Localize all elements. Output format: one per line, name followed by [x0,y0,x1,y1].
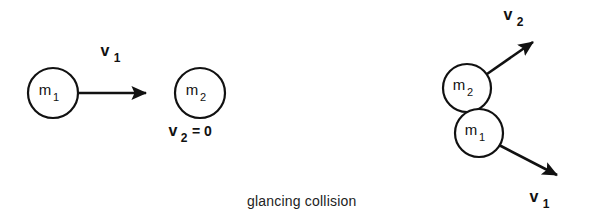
after-v1-label-subscript: 1 [543,197,550,211]
after-collision-group: v 2 m 2 m 1 v 1 [443,6,557,211]
after-v2-line [487,42,533,74]
after-v1-line [499,145,557,175]
after-m1-label: m [465,121,478,138]
after-v2-label-subscript: 2 [517,15,524,29]
after-velocity-1-arrow [499,145,557,175]
before-v1-label-letter: v [101,42,110,59]
before-velocity-1-label: v 1 [101,42,121,65]
after-m1-subscript: 1 [479,131,485,143]
before-m2-subscript: 2 [200,91,206,103]
physics-diagram-canvas: m 1 v 1 m 2 v 2 = 0 [0,0,601,221]
before-v1-label-subscript: 1 [114,51,121,65]
before-collision-group: m 1 v 1 m 2 v 2 = 0 [28,42,225,145]
before-v2-label-subscript: 2 [181,131,188,145]
before-v2-equals-zero: = 0 [192,123,212,139]
after-velocity-1-label: v 1 [530,188,550,211]
after-v2-label-letter: v [504,6,513,23]
before-velocity-2-label: v 2 = 0 [169,122,213,145]
before-body-m2: m 2 [175,68,225,118]
after-m2-subscript: 2 [467,86,473,98]
before-m1-label: m [39,81,52,98]
after-velocity-2-arrow [487,42,533,74]
collision-diagram-svg: m 1 v 1 m 2 v 2 = 0 [0,0,601,221]
after-v1-label-letter: v [530,188,539,205]
after-body-m1: m 1 [455,109,503,157]
before-v2-label-letter: v [169,122,178,139]
after-velocity-2-label: v 2 [504,6,524,29]
before-m1-subscript: 1 [53,91,59,103]
after-m2-label: m [453,76,466,93]
before-body-m1: m 1 [28,68,78,118]
before-m2-label: m [186,81,199,98]
figure-caption: glancing collision [247,193,356,209]
after-body-m2: m 2 [443,64,491,112]
